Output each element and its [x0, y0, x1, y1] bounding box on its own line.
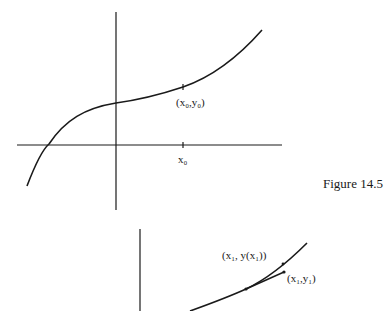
- x0y0-label: (x₀,y₀): [176, 96, 205, 108]
- true-point: [282, 263, 285, 266]
- solution-curve-top: [27, 30, 262, 186]
- approx-point-label: (x₁,y₁): [287, 272, 316, 284]
- figure-canvas: [0, 0, 385, 311]
- true-point-label: (x₁, y(x₁)): [222, 249, 266, 261]
- x0-tick-label: x₀: [178, 153, 187, 165]
- approx-point: [282, 270, 285, 273]
- figure-caption: Figure 14.5: [323, 176, 383, 192]
- euler-step-line: [246, 272, 284, 289]
- x0-point-bottom: [244, 287, 247, 290]
